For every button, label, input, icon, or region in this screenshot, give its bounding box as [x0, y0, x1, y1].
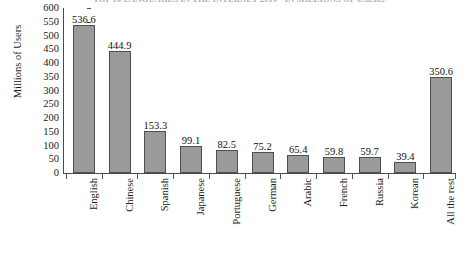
- plot-area: 536.6444.9153.399.182.575.265.459.859.73…: [63, 8, 456, 173]
- x-axis-category-label: Japanese: [195, 178, 206, 215]
- x-axis-tick-mark: [137, 174, 138, 179]
- bar: 39.4: [394, 162, 416, 173]
- x-axis-category-label: Spanish: [159, 178, 170, 211]
- x-axis-line: [63, 173, 456, 174]
- x-axis-tick-mark: [245, 174, 246, 179]
- y-axis-tick-label: 100: [27, 141, 59, 151]
- bar: 444.9: [109, 51, 131, 173]
- y-axis-line: [63, 8, 64, 174]
- bar: 75.2: [252, 152, 274, 173]
- bar: 59.8: [323, 157, 345, 173]
- x-axis-tick-mark: [388, 174, 389, 179]
- y-axis-tick-labels: 600550500450400350300250200150100500: [27, 8, 59, 173]
- bar: 153.3: [144, 131, 166, 173]
- y-axis-title: Millions of Users: [12, 0, 23, 132]
- bar: 99.1: [180, 146, 202, 173]
- bar: 536.6: [73, 25, 95, 173]
- x-axis-category-label: Arabic: [302, 178, 313, 207]
- y-axis-tick-label: 400: [27, 58, 59, 68]
- x-axis-category-label: Portuguese: [231, 178, 242, 225]
- y-axis-tick-label: 500: [27, 31, 59, 41]
- x-axis-tick-mark: [173, 174, 174, 179]
- y-axis-tick-label: 600: [27, 3, 59, 13]
- x-axis-tick-mark: [316, 174, 317, 179]
- bar-value-label: 99.1: [182, 135, 200, 146]
- x-axis-category-label: Chinese: [124, 178, 135, 212]
- y-axis-tick-label: 250: [27, 99, 59, 109]
- bar: 82.5: [216, 150, 238, 173]
- bar: 350.6: [430, 77, 452, 173]
- bar-value-label: 153.3: [144, 120, 168, 131]
- x-axis-tick-mark: [423, 174, 424, 179]
- bar-value-label: 536.6: [72, 14, 96, 25]
- bar-value-label: 65.4: [289, 144, 307, 155]
- x-axis-tick-mark: [352, 174, 353, 179]
- x-axis-tick-mark: [102, 174, 103, 179]
- bar-value-label: 59.7: [360, 146, 378, 157]
- bar-value-label: 82.5: [218, 139, 236, 150]
- y-axis-tick-label: 300: [27, 86, 59, 96]
- x-axis-category-label: French: [338, 178, 349, 207]
- bar-value-label: 350.6: [429, 66, 453, 77]
- y-axis-tick-label: 450: [27, 44, 59, 54]
- bar-value-label: 39.4: [396, 151, 414, 162]
- x-axis-category-label: All the rest: [445, 178, 456, 225]
- x-axis-tick-mark: [66, 174, 67, 179]
- chart-title: TOP 10 LANGUAGES IN THE INTERNET 2010 - …: [74, 0, 404, 2]
- bar: 65.4: [287, 155, 309, 173]
- bar: 59.7: [359, 157, 381, 173]
- x-axis-category-label: Russia: [374, 178, 385, 206]
- y-axis-tick-label: 200: [27, 113, 59, 123]
- x-axis-category-label: Korean: [409, 178, 420, 209]
- x-axis-category-label: German: [267, 178, 278, 212]
- x-axis-category-label: English: [88, 178, 99, 210]
- bar-value-label: 75.2: [253, 141, 271, 152]
- x-axis-tick-mark: [209, 174, 210, 179]
- y-axis-tick-label: 150: [27, 127, 59, 137]
- bar-chart: TOP 10 LANGUAGES IN THE INTERNET 2010 - …: [0, 0, 468, 261]
- y-axis-tick-label: 0: [27, 168, 59, 178]
- x-axis-tick-mark: [280, 174, 281, 179]
- y-axis-tick-label: 50: [27, 154, 59, 164]
- bar-value-label: 59.8: [325, 146, 343, 157]
- bar-value-label: 444.9: [108, 40, 132, 51]
- y-axis-tick-label: 350: [27, 72, 59, 82]
- y-axis-tick-label: 550: [27, 17, 59, 27]
